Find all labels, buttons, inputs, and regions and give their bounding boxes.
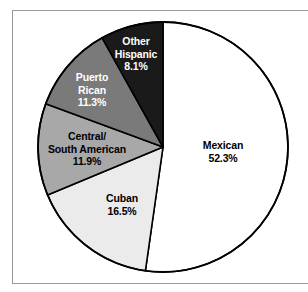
slice-label-other-line2: Hispanic xyxy=(100,48,172,61)
slice-label-other-value: 8.1% xyxy=(100,60,172,73)
slice-label-central-line2: South American xyxy=(28,143,146,156)
slice-label-puerto-rican: Puerto Rican 11.3% xyxy=(57,71,127,109)
slice-label-other-hispanic: Other Hispanic 8.1% xyxy=(100,35,172,73)
slice-label-central-value: 11.9% xyxy=(28,155,146,168)
slice-label-mexican: Mexican 52.3% xyxy=(186,139,260,164)
slice-label-puerto-line1: Puerto xyxy=(57,71,127,84)
slice-label-cuban-value: 16.5% xyxy=(87,205,157,218)
slice-label-puerto-line2: Rican xyxy=(57,84,127,97)
slice-label-cuban-name: Cuban xyxy=(87,192,157,205)
slice-label-central-line1: Central/ xyxy=(28,130,146,143)
slice-label-cuban: Cuban 16.5% xyxy=(87,192,157,217)
slice-label-other-line1: Other xyxy=(100,35,172,48)
slice-label-central-south-american: Central/ South American 11.9% xyxy=(28,130,146,168)
slice-label-puerto-value: 11.3% xyxy=(57,96,127,109)
slice-label-mexican-name: Mexican xyxy=(186,139,260,152)
slice-label-mexican-value: 52.3% xyxy=(186,152,260,165)
pie-chart-figure: Mexican 52.3% Cuban 16.5% Central/ South… xyxy=(0,0,308,292)
